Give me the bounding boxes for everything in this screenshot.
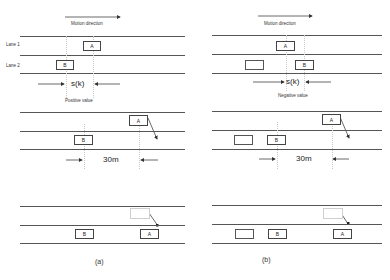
road-line: [20, 206, 185, 207]
road-line: [212, 130, 382, 131]
road-line: [20, 149, 185, 150]
car-a: A: [322, 114, 341, 125]
road-line: [20, 55, 185, 56]
caption-a: (a): [95, 258, 104, 265]
car-a: A: [333, 229, 352, 239]
lane-2-label: Lane 2: [6, 63, 20, 68]
road-line: [212, 224, 382, 225]
caption-b: (b): [262, 256, 271, 263]
motion-direction-label-b: Motion direction: [264, 21, 296, 26]
road-line: [20, 73, 185, 74]
road-line: [212, 54, 382, 55]
gap-sign-label-b: Negative value: [278, 93, 308, 98]
road-line: [20, 36, 185, 37]
road-line: [212, 111, 382, 112]
distance-label-b: 30m: [296, 154, 312, 163]
ghost-car: [130, 208, 150, 219]
car-a: A: [276, 41, 295, 51]
empty-car: [235, 229, 254, 239]
gap-symbol-a: s(k): [71, 79, 84, 88]
car-b: B: [268, 229, 287, 239]
lane-1-label: Lane 1: [6, 42, 20, 47]
car-a: A: [83, 41, 101, 51]
ghost-car: [323, 208, 343, 219]
guide-line: [277, 122, 278, 169]
road-line: [20, 225, 185, 226]
road-line: [212, 35, 382, 36]
guide-line: [139, 124, 140, 169]
road-line: [212, 243, 382, 244]
guide-line: [84, 124, 85, 169]
guide-line: [332, 122, 333, 169]
car-a: A: [129, 115, 148, 126]
road-line: [212, 149, 382, 150]
gap-sign-label-a: Positive value: [65, 98, 93, 103]
road-line: [20, 131, 185, 132]
road-line: [212, 73, 382, 74]
road-line: [212, 205, 382, 206]
motion-direction-label-a: Motion direction: [71, 21, 103, 26]
empty-car: [245, 60, 264, 70]
road-line: [20, 112, 185, 113]
car-b: B: [295, 60, 314, 70]
road-line: [20, 243, 185, 244]
car-b: B: [75, 229, 94, 239]
car-b: B: [267, 135, 286, 145]
car-b: B: [74, 135, 93, 145]
gap-symbol-b: s(k): [286, 77, 299, 86]
car-a: A: [140, 229, 159, 239]
empty-car: [234, 135, 253, 145]
distance-label-a: 30m: [103, 155, 119, 164]
car-b: B: [56, 60, 74, 70]
